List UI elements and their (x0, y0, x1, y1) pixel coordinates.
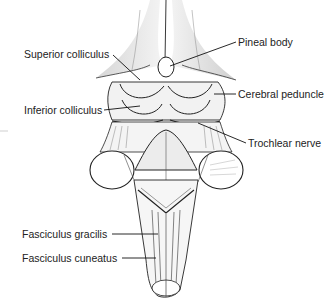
midbrain (108, 82, 225, 120)
pineal-body-shape (158, 57, 174, 77)
left-peduncle-cut (90, 151, 134, 189)
right-peduncle-cut (199, 151, 243, 189)
label-inferior-colliculus: Inferior colliculus (24, 104, 102, 116)
label-fasciculus-gracilis: Fasciculus gracilis (22, 228, 107, 240)
label-superior-colliculus: Superior colliculus (24, 48, 109, 60)
label-trochlear-nerve: Trochlear nerve (248, 137, 321, 149)
right-thalamus-shade (169, 0, 236, 80)
label-pineal-body: Pineal body (238, 36, 293, 48)
label-fasciculus-cuneatus: Fasciculus cuneatus (22, 252, 117, 264)
label-cerebral-peduncle: Cerebral peduncle (238, 88, 324, 100)
brainstem-diagram: Superior colliculus Inferior colliculus … (0, 0, 332, 299)
left-thalamus-shade (96, 0, 163, 78)
